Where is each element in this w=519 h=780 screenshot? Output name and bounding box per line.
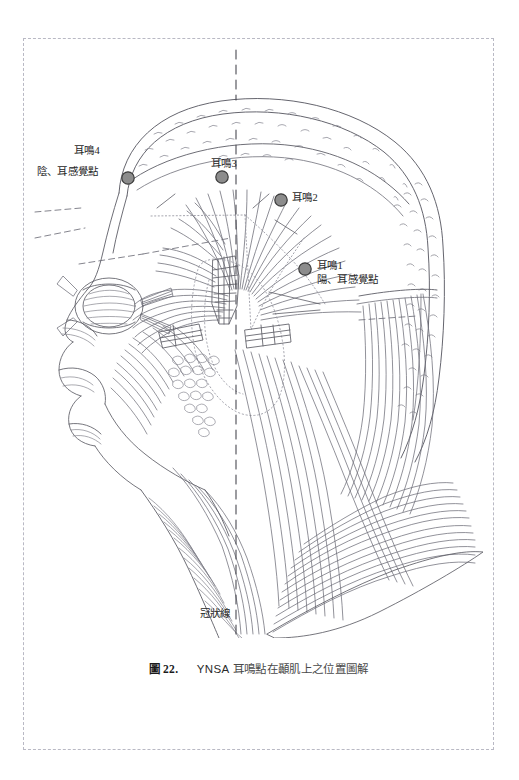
figure-number-prefix: 圖 [149, 663, 160, 675]
scalp-outline [119, 99, 444, 462]
label-tinnitus-2: 耳鳴2 [292, 192, 318, 204]
figure-number: 22. [163, 663, 178, 675]
label-leader-lines [157, 194, 320, 314]
label-tinnitus-1: 耳鳴1 [317, 260, 343, 272]
alveolar-teeth-stipple [169, 354, 219, 437]
tinnitus-point-4-marker [122, 172, 134, 184]
galea-stipple [139, 108, 407, 200]
label-tinnitus-4-sub: 陰、耳感覺點 [37, 166, 98, 178]
tinnitus-point-1-marker [299, 263, 311, 275]
nose-and-midface [59, 290, 106, 446]
frontal-contour [87, 193, 127, 290]
label-tinnitus-4: 耳鳴4 [74, 145, 100, 157]
eyeball-striations [84, 290, 134, 324]
tinnitus-point-2-marker [275, 194, 287, 206]
caption-text: 耳鳴點在顳肌上之位置圖解 [233, 663, 369, 675]
zygomatic-arch-right [245, 324, 291, 348]
neck-muscle-hatch [173, 350, 413, 634]
label-tinnitus-3: 耳鳴3 [211, 158, 237, 170]
caption-system: YNSA [197, 663, 230, 675]
tinnitus-point-3-marker [216, 171, 228, 183]
midface-hatch [61, 328, 101, 444]
anatomical-illustration [23, 38, 494, 638]
figure-caption: 圖 22. YNSA 耳鳴點在顳肌上之位置圖解 [23, 660, 494, 676]
label-coronal-line: 冠狀線 [200, 608, 231, 620]
head-temporalis-svg [23, 38, 494, 638]
mandible-contour [95, 404, 205, 490]
figure-page: 耳鳴4 陰、耳感覺點 耳鳴3 耳鳴2 耳鳴1 陽、耳感覺點 冠狀線 圖 22. … [0, 0, 519, 780]
label-tinnitus-1-sub: 陽、耳感覺點 [317, 274, 378, 286]
coronoid-tendon [212, 256, 239, 324]
extraocular-muscles [57, 276, 173, 336]
